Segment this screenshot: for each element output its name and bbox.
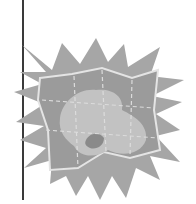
map-icon bbox=[38, 68, 160, 170]
folded-map-starburst-icon bbox=[0, 0, 196, 204]
